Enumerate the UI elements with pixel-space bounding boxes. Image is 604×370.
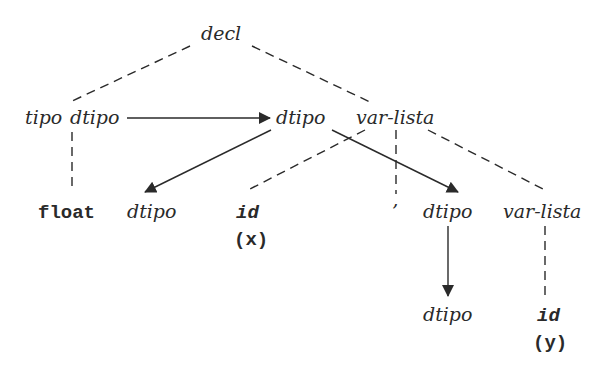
node-id-x: id bbox=[236, 202, 259, 224]
node-child-varlista: var-lista bbox=[503, 200, 581, 222]
node-tipo: tipo bbox=[25, 106, 62, 128]
arrow-dtipo-to-id-dtipo bbox=[145, 130, 271, 192]
node-float: float bbox=[38, 202, 95, 224]
node-decl: decl bbox=[201, 22, 241, 44]
dependency-arrows bbox=[127, 118, 458, 296]
edge-decl-tipo bbox=[70, 46, 190, 102]
node-bottom-dtipo: dtipo bbox=[423, 303, 472, 325]
node-id-x-value: (x) bbox=[234, 229, 268, 251]
attribute-dependency-graph: decl tipo dtipo dtipo var-lista float dt… bbox=[0, 0, 604, 370]
node-comma: ’ bbox=[392, 200, 398, 222]
node-id-y: id bbox=[537, 305, 560, 327]
node-tipo-dtipo: dtipo bbox=[70, 106, 119, 128]
node-id-dtipo: dtipo bbox=[127, 200, 176, 222]
node-varlista: var-lista bbox=[356, 106, 434, 128]
edge-varlista-varlista bbox=[428, 130, 545, 190]
arrow-dtipo-to-child-dtipo bbox=[332, 130, 458, 192]
node-id-y-value: (y) bbox=[533, 332, 567, 354]
node-child-dtipo: dtipo bbox=[423, 200, 472, 222]
edge-decl-varlista bbox=[252, 46, 370, 102]
parse-tree-edges bbox=[70, 46, 545, 296]
edge-varlista-id bbox=[248, 130, 365, 190]
node-varlista-dtipo: dtipo bbox=[276, 106, 325, 128]
